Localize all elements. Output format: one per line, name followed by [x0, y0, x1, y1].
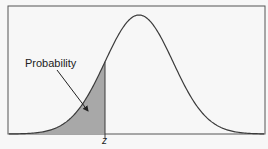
- z-axis-label: z: [102, 135, 107, 146]
- probability-shaded-area: [9, 62, 105, 134]
- probability-label: Probability: [25, 57, 76, 69]
- normal-distribution-chart: [0, 0, 268, 149]
- plot-frame: [8, 6, 265, 134]
- normal-curve: [9, 15, 264, 134]
- annotation-arrow: [57, 70, 88, 111]
